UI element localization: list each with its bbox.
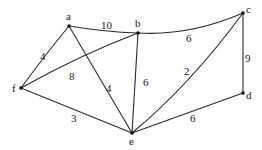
node-a (67, 24, 71, 28)
edge-b-c (138, 13, 243, 33)
edge-a-e (69, 26, 132, 133)
weight-a-b: 10 (101, 19, 113, 31)
node-label-a: a (66, 10, 71, 22)
node-b (136, 31, 140, 35)
node-label-c: c (246, 3, 251, 15)
weight-a-e: 4 (106, 82, 112, 94)
weight-c-e: 2 (184, 65, 190, 77)
edge-e-d (132, 93, 243, 133)
weight-a-f: 4 (40, 50, 46, 62)
weight-e-d: 6 (190, 112, 196, 124)
node-label-b: b (135, 17, 141, 29)
edge-b-e (132, 33, 138, 133)
weight-c-d: 9 (245, 52, 251, 64)
node-label-d: d (246, 89, 252, 101)
node-label-f: f (12, 82, 16, 94)
weight-f-e: 3 (71, 112, 77, 124)
node-c (241, 11, 245, 15)
edge-f-b (21, 33, 138, 88)
node-f (19, 86, 23, 90)
node-label-e: e (129, 135, 134, 147)
node-d (241, 91, 245, 95)
weight-f-b: 8 (69, 70, 75, 82)
weight-b-c: 6 (186, 32, 192, 44)
edge-f-e (21, 88, 132, 133)
weight-b-e: 6 (143, 76, 149, 88)
weighted-graph: a b c d e f 10 6 4 8 4 6 2 9 3 6 (0, 0, 262, 150)
